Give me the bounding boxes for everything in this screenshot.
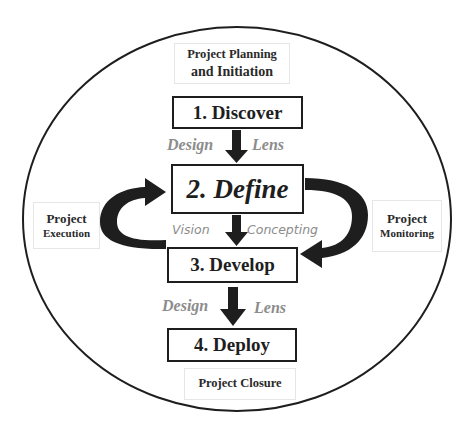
arrow-develop-to-deploy xyxy=(220,287,246,326)
stage-define: 2. Define xyxy=(171,164,304,214)
loop-arrow-execution xyxy=(100,178,166,249)
connector-3-left-label: Design xyxy=(162,297,208,315)
connector-2-left-label: Vision xyxy=(172,222,210,237)
stage-deploy-label: 4. Deploy xyxy=(194,334,270,356)
stage-develop: 3. Develop xyxy=(167,247,298,283)
stage-develop-label: 3. Develop xyxy=(190,254,274,276)
phase-execution-line1: Project xyxy=(46,211,86,227)
connector-3-right-label: Lens xyxy=(254,299,286,317)
stage-define-label: 2. Define xyxy=(187,174,289,205)
stage-deploy: 4. Deploy xyxy=(167,328,297,362)
phase-planning-line1: Project Planning xyxy=(187,47,277,63)
phase-planning-initiation: Project Planning and Initiation xyxy=(174,43,290,84)
connector-1-right-label: Lens xyxy=(252,136,284,154)
stage-discover-label: 1. Discover xyxy=(193,102,283,124)
connector-1-left-label: Design xyxy=(167,136,213,154)
stage-discover: 1. Discover xyxy=(172,96,303,129)
phase-planning-line2: and Initiation xyxy=(191,63,273,81)
phase-execution: Project Execution xyxy=(33,202,100,249)
phase-closure: Project Closure xyxy=(184,368,296,400)
phase-monitoring: Project Monitoring xyxy=(372,200,442,252)
phase-execution-line2: Execution xyxy=(43,227,90,241)
arrow-define-to-develop xyxy=(225,215,248,246)
connector-2-right-label: Concepting xyxy=(247,222,318,237)
arrow-discover-to-define xyxy=(225,130,248,163)
phase-closure-line1: Project Closure xyxy=(198,376,281,392)
phase-monitoring-line2: Monitoring xyxy=(380,227,434,241)
phase-monitoring-line1: Project xyxy=(387,211,427,227)
